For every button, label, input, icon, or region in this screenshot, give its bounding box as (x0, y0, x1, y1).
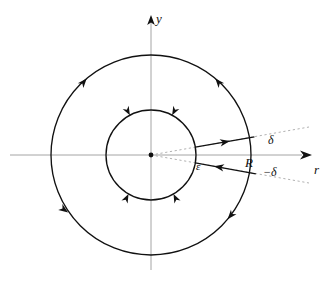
origin-point (149, 153, 154, 158)
y-axis-label: y (156, 12, 162, 25)
outgoing-ray-group (195, 137, 254, 147)
outer-radius-label: R (245, 156, 253, 169)
contour-diagram-canvas (0, 0, 334, 282)
axis-group (10, 15, 302, 270)
r-axis-label: r (314, 163, 319, 176)
lower-angle-label: −δ (263, 166, 277, 178)
contour-diagram-figure: y r R ε δ −δ (0, 0, 334, 282)
inner-radius-label: ε (196, 161, 200, 172)
upper-angle-label: δ (268, 134, 274, 146)
